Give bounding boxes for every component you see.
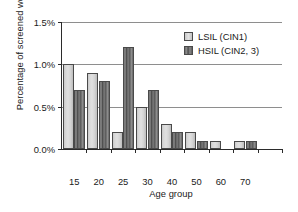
legend-label-hsil: HSIL (CIN2, 3): [198, 45, 259, 56]
legend-swatch-hsil: [184, 46, 193, 55]
y-tick-label: 0.0%: [13, 144, 62, 155]
bar-lsil-30: [136, 107, 147, 149]
x-tick-mark: [135, 149, 136, 153]
y-tick-label: 1.5%: [13, 17, 62, 28]
chart-legend: LSIL (CIN1) HSIL (CIN2, 3): [184, 31, 259, 56]
bar-lsil-50: [185, 132, 196, 149]
x-tick-mark: [233, 149, 234, 153]
legend-item-lsil: LSIL (CIN1): [184, 31, 259, 42]
bar-lsil-25: [112, 132, 123, 149]
bar-hsil-70: [246, 141, 257, 149]
bar-hsil-40: [172, 132, 183, 149]
x-tick-mark: [184, 149, 185, 153]
legend-swatch-lsil: [184, 32, 193, 41]
bar-lsil-20: [87, 73, 98, 149]
bar-lsil-60: [210, 141, 221, 149]
x-tick-mark: [86, 149, 87, 153]
bar-hsil-25: [123, 47, 134, 149]
x-tick-mark: [209, 149, 210, 153]
bar-chart-figure: Percentage of screened women Age group 0…: [0, 0, 298, 212]
y-tick-label: 0.5%: [13, 101, 62, 112]
x-tick-mark: [258, 149, 259, 153]
legend-label-lsil: LSIL (CIN1): [198, 31, 247, 42]
gridline: [62, 64, 282, 65]
x-axis-label: Age group: [60, 188, 282, 199]
bar-lsil-15: [63, 64, 74, 149]
x-tick-mark: [111, 149, 112, 153]
bar-hsil-30: [148, 90, 159, 149]
x-tick-label: 70: [225, 176, 265, 187]
y-tick-label: 1.0%: [13, 59, 62, 70]
bar-hsil-20: [99, 81, 110, 149]
bar-hsil-50: [197, 141, 208, 149]
gridline: [62, 22, 282, 23]
bar-lsil-70: [234, 141, 245, 149]
bar-hsil-15: [74, 90, 85, 149]
x-tick-mark: [160, 149, 161, 153]
bar-lsil-40: [161, 124, 172, 149]
legend-item-hsil: HSIL (CIN2, 3): [184, 45, 259, 56]
x-tick-mark: [282, 149, 283, 153]
